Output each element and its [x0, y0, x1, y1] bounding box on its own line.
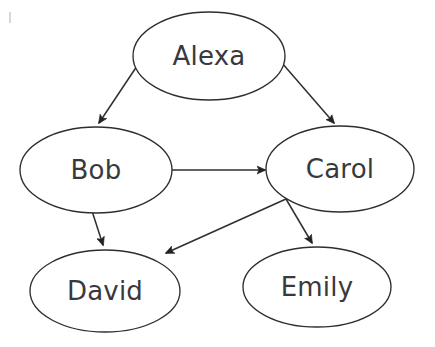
- scan-speck: [9, 12, 11, 23]
- edge-alexa-bob: [99, 66, 137, 123]
- node-label-emily: Emily: [281, 272, 354, 302]
- node-label-alexa: Alexa: [173, 41, 246, 71]
- node-emily[interactable]: Emily: [243, 247, 391, 327]
- edge-bob-david: [92, 211, 103, 245]
- node-label-david: David: [67, 276, 143, 306]
- node-david[interactable]: David: [30, 250, 180, 332]
- edge-alexa-carol: [282, 63, 334, 123]
- node-alexa[interactable]: Alexa: [133, 12, 285, 100]
- node-label-bob: Bob: [71, 155, 122, 185]
- node-carol[interactable]: Carol: [266, 126, 414, 212]
- directed-graph: Alexa Bob Carol David Emily: [0, 0, 435, 347]
- node-label-carol: Carol: [306, 154, 374, 184]
- node-bob[interactable]: Bob: [20, 127, 172, 213]
- edge-carol-david: [166, 199, 286, 253]
- diagram-canvas: Alexa Bob Carol David Emily: [0, 0, 435, 347]
